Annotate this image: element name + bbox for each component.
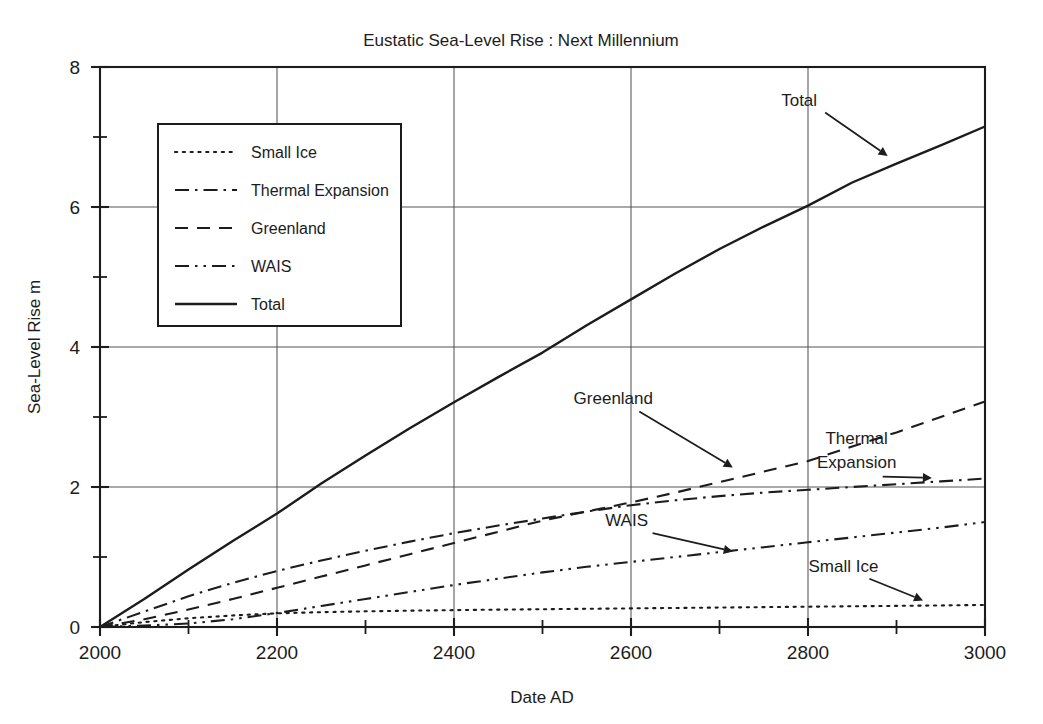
chart-title: Eustatic Sea-Level Rise : Next Millenniu… — [363, 31, 679, 50]
sea-level-rise-chart: Eustatic Sea-Level Rise : Next Millenniu… — [0, 0, 1043, 724]
y-tick-label: 8 — [69, 57, 80, 78]
chart-figure: Eustatic Sea-Level Rise : Next Millenniu… — [0, 0, 1043, 724]
legend-label-total: Total — [251, 296, 285, 313]
y-tick-label: 6 — [69, 197, 80, 218]
annotation-label-wais: WAIS — [605, 511, 648, 530]
chart-background — [0, 0, 1043, 724]
y-tick-label: 2 — [69, 477, 80, 498]
x-tick-label: 2800 — [787, 642, 829, 663]
legend-label-greenland: Greenland — [251, 220, 326, 237]
annotation-label-thermal-expansion-line2: Expansion — [817, 453, 896, 472]
x-axis-label: Date AD — [510, 688, 573, 707]
annotation-label-greenland: Greenland — [574, 389, 653, 408]
legend-label-thermal-expansion: Thermal Expansion — [251, 182, 389, 199]
x-tick-label: 2200 — [256, 642, 298, 663]
x-tick-label: 3000 — [964, 642, 1006, 663]
annotation-label-thermal-expansion: Thermal — [825, 429, 887, 448]
annotation-label-small-ice: Small Ice — [808, 557, 878, 576]
annotation-label-total: Total — [781, 91, 817, 110]
chart-legend: Small IceThermal ExpansionGreenlandWAIST… — [158, 124, 401, 326]
y-tick-label: 4 — [69, 337, 80, 358]
x-tick-label: 2600 — [610, 642, 652, 663]
y-axis-label: Sea-Level Rise m — [25, 280, 44, 414]
legend-label-small-ice: Small Ice — [251, 144, 317, 161]
y-tick-label: 0 — [69, 617, 80, 638]
x-tick-label: 2000 — [79, 642, 121, 663]
x-tick-label: 2400 — [433, 642, 475, 663]
annotation-arrow-thermal-expansion — [883, 477, 923, 478]
legend-label-wais: WAIS — [251, 258, 291, 275]
